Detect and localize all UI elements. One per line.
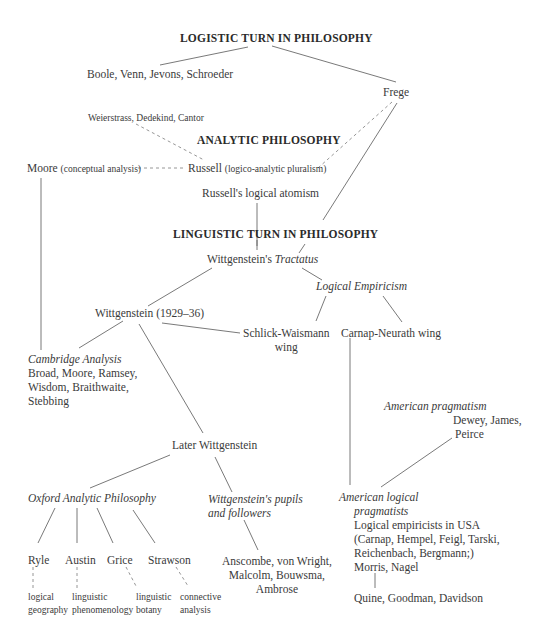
grice-method-line-1: linguistic: [136, 591, 171, 604]
node-boole-venn-jevons-schroeder: Boole, Venn, Jevons, Schroeder: [87, 67, 233, 81]
alp-line-4: Morris, Nagel: [339, 560, 500, 574]
edge-logistic-frege: [272, 46, 396, 82]
heading-linguistic-turn: LINGUISTIC TURN IN PHILOSOPHY: [173, 227, 378, 241]
grice-method-line-2: botany: [136, 604, 171, 617]
american-pragmatism-line-2: Peirce: [384, 427, 522, 441]
edge-later-oxford: [90, 455, 170, 488]
alp-title-line-2: pragmatists: [339, 504, 500, 518]
schlick-line-1: Schlick-Waismann: [243, 326, 330, 340]
node-austin-method: linguistic phenomenology: [72, 591, 133, 617]
alp-line-1: Logical empiricists in USA: [339, 518, 500, 532]
tractatus-title: Tractatus: [275, 253, 318, 265]
edge-pragmatism-alp: [381, 438, 452, 487]
edge-empiricism-schlick: [316, 296, 326, 321]
edge-middle-cambridge: [79, 321, 123, 348]
node-russell-logical-atomism: Russell's logical atomism: [202, 186, 319, 200]
node-quine-goodman-davidson: Quine, Goodman, Davidson: [354, 591, 483, 605]
edge-oxford-grice: [97, 508, 113, 543]
node-ryle: Ryle: [28, 553, 49, 567]
american-pragmatism-title: American pragmatism: [384, 399, 522, 413]
ryle-method-line-2: geography: [28, 604, 68, 617]
alp-title-line-1: American logical: [339, 490, 500, 504]
node-grice-method: linguistic botany: [136, 591, 171, 617]
node-russell: Russell (logico-analytic pluralism): [188, 161, 326, 176]
node-wittgenstein-1929-36: Wittgenstein (1929–36): [95, 306, 204, 320]
cambridge-title: Cambridge Analysis: [28, 352, 137, 366]
node-anscombe-group: Anscombe, von Wright, Malcolm, Bouwsma, …: [222, 554, 332, 596]
alp-line-2: (Carnap, Hempel, Feigl, Tarski,: [339, 532, 500, 546]
node-strawson-method: connective analysis: [180, 591, 221, 617]
node-logical-empiricism: Logical Empiricism: [316, 279, 407, 293]
ryle-method-line-1: logical: [28, 591, 68, 604]
node-frege: Frege: [383, 85, 409, 99]
edge-oxford-ryle: [38, 508, 55, 543]
edge-later-pupils: [215, 457, 232, 492]
edge-tractatus-middle: [148, 268, 212, 306]
heading-logistic-turn: LOGISTIC TURN IN PHILOSOPHY: [180, 31, 373, 45]
strawson-method-line-2: analysis: [180, 604, 221, 617]
cambridge-line-3: Stebbing: [28, 394, 137, 408]
cambridge-line-1: Broad, Moore, Ramsey,: [28, 366, 137, 380]
russell-name: Russell: [188, 162, 222, 174]
edge-middle-later: [139, 324, 203, 433]
philosophy-lineage-diagram: LOGISTIC TURN IN PHILOSOPHY ANALYTIC PHI…: [0, 0, 537, 638]
edge-frege-linguistic: [323, 103, 397, 220]
node-cambridge-analysis: Cambridge Analysis Broad, Moore, Ramsey,…: [28, 352, 137, 408]
node-wittgenstein-tractatus: Wittgenstein's Tractatus: [207, 252, 318, 266]
node-ryle-method: logical geography: [28, 591, 68, 617]
moore-note: (conceptual analysis): [61, 164, 141, 174]
edge-empiricism-carnap: [383, 296, 402, 322]
heading-analytic-philosophy: ANALYTIC PHILOSOPHY: [197, 133, 341, 147]
strawson-method-line-1: connective: [180, 591, 221, 604]
node-oxford-analytic-philosophy: Oxford Analytic Philosophy: [28, 491, 156, 505]
node-schlick-waismann-wing: Schlick-Waismann wing: [243, 326, 330, 354]
cambridge-line-2: Wisdom, Braithwaite,: [28, 380, 137, 394]
anscombe-line-2: Malcolm, Bouwsma,: [222, 568, 332, 582]
node-carnap-neurath-wing: Carnap-Neurath wing: [341, 326, 441, 340]
edge-logistic-boole: [160, 47, 248, 65]
node-later-wittgenstein: Later Wittgenstein: [172, 438, 257, 452]
edge-grice-method: [126, 567, 136, 586]
edge-weierstrass-russell-dashed: [136, 124, 204, 160]
austin-method-line-1: linguistic: [72, 591, 133, 604]
node-weierstrass-dedekind-cantor: Weierstrass, Dedekind, Cantor: [88, 111, 204, 125]
austin-method-line-2: phenomenology: [72, 604, 133, 617]
node-wittgenstein-pupils: Wittgenstein's pupils and followers: [208, 492, 303, 520]
node-american-pragmatism: American pragmatism Dewey, James, Peirce: [384, 399, 522, 441]
node-austin: Austin: [65, 553, 96, 567]
node-strawson: Strawson: [148, 553, 191, 567]
edge-middle-schlick: [162, 323, 240, 333]
anscombe-line-3: Ambrose: [222, 582, 332, 596]
node-moore: Moore (conceptual analysis): [27, 161, 141, 176]
american-pragmatism-line-1: Dewey, James,: [384, 413, 522, 427]
pupils-line-2: and followers: [208, 506, 303, 520]
node-grice: Grice: [107, 553, 133, 567]
russell-note: (logico-analytic pluralism): [225, 164, 327, 174]
schlick-line-2: wing: [243, 340, 330, 354]
edge-strawson-method: [176, 567, 188, 586]
node-american-logical-pragmatists: American logical pragmatists Logical emp…: [339, 490, 500, 574]
edge-oxford-strawson: [133, 510, 155, 543]
anscombe-line-1: Anscombe, von Wright,: [222, 554, 332, 568]
moore-name: Moore: [27, 162, 58, 174]
tractatus-prefix: Wittgenstein's: [207, 253, 275, 265]
pupils-line-1: Wittgenstein's pupils: [208, 492, 303, 506]
edge-pupils-anscombe: [244, 520, 258, 550]
alp-line-3: Reichenbach, Bergmann;): [339, 546, 500, 560]
